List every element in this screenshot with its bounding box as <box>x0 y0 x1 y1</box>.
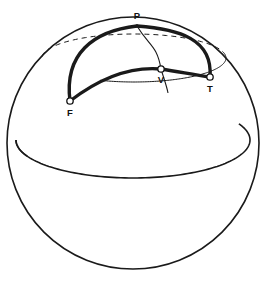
equator-back-arc-right <box>239 124 250 140</box>
equator-back-arc-left <box>16 140 27 156</box>
great-circle-arc-p-f <box>69 26 137 101</box>
vertex-markers <box>67 66 213 104</box>
vertex-marker-v <box>158 66 164 72</box>
sphere-outline <box>7 17 259 269</box>
equator-front-arc <box>16 140 250 178</box>
point-label-p: P <box>134 10 141 21</box>
vertex-marker-t <box>207 74 213 80</box>
point-label-f: F <box>67 107 73 118</box>
vertex-marker-f <box>67 98 73 104</box>
point-label-t: T <box>207 83 213 94</box>
sphere-diagram-canvas: P V T F <box>0 0 267 287</box>
spherical-diagram-figure: P V T F <box>0 0 267 287</box>
point-label-v: V <box>158 74 165 85</box>
great-circle-arc-f-v-t <box>70 69 210 101</box>
